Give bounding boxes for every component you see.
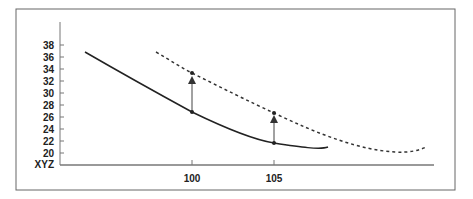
x-tick-105: 105 — [266, 173, 283, 184]
x-tick-100: 100 — [184, 173, 201, 184]
y-tick-22: 22 — [43, 136, 55, 147]
chart: 38363432302826242220 XYZ 100 105 — [0, 0, 473, 199]
y-tick-32: 32 — [43, 76, 55, 87]
point-dashed-105 — [272, 111, 276, 115]
y-ticks: 38363432302826242220 — [43, 40, 64, 159]
dashed-curve — [156, 52, 426, 152]
chart-frame — [16, 9, 455, 190]
y-tick-34: 34 — [43, 64, 55, 75]
y-tick-30: 30 — [43, 88, 55, 99]
point-solid-100 — [190, 110, 194, 114]
y-tick-26: 26 — [43, 112, 55, 123]
y-tick-36: 36 — [43, 52, 55, 63]
y-tick-28: 28 — [43, 100, 55, 111]
solid-curve — [85, 52, 328, 148]
y-tick-20: 20 — [43, 148, 55, 159]
y-tick-24: 24 — [43, 124, 55, 135]
y-axis-label: XYZ — [35, 159, 54, 170]
y-tick-38: 38 — [43, 40, 55, 51]
point-solid-105 — [272, 141, 276, 145]
point-dashed-100 — [190, 71, 194, 75]
